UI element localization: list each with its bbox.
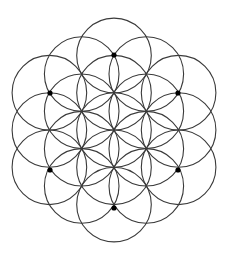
vertex-dot-bottom — [111, 205, 116, 210]
vertex-dot-upper-left — [47, 90, 52, 95]
vertex-dot-group — [47, 52, 180, 210]
vertex-dot-lower-right — [175, 167, 180, 172]
vertex-dot-upper-right — [175, 90, 180, 95]
flower-of-life-diagram — [0, 0, 233, 257]
vertex-dot-top — [111, 52, 116, 57]
vertex-dot-lower-left — [47, 167, 52, 172]
